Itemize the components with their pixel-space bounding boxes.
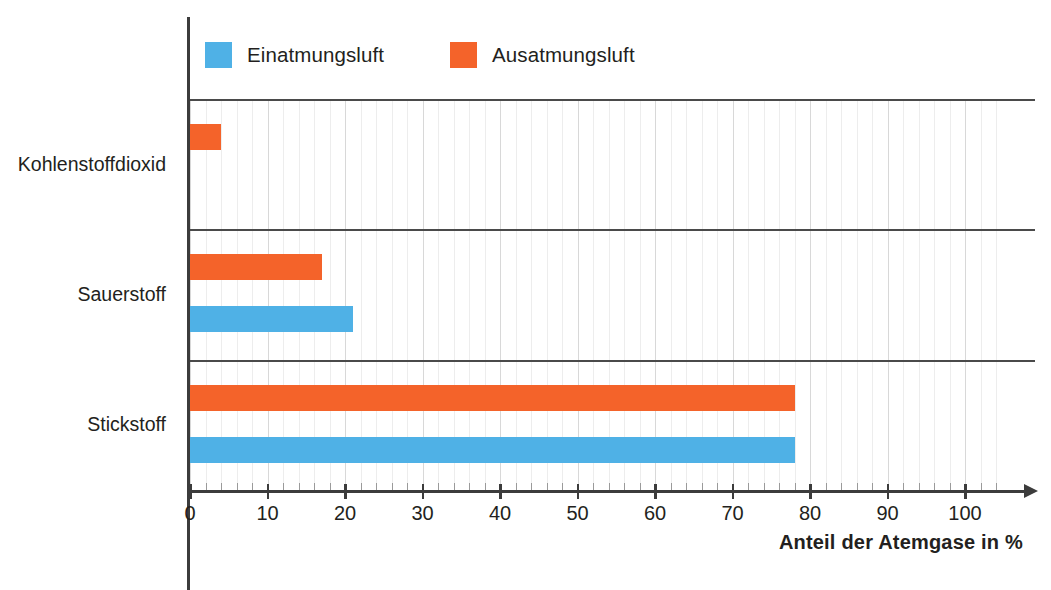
grid-line-minor xyxy=(981,99,982,490)
x-minor-tick xyxy=(903,483,904,490)
x-minor-tick xyxy=(361,483,362,490)
x-tick-label-60: 60 xyxy=(644,502,666,525)
x-tick-label-70: 70 xyxy=(721,502,743,525)
grid-line-minor xyxy=(593,99,594,490)
x-minor-tick xyxy=(934,483,935,490)
grid-line-minor xyxy=(206,99,207,490)
x-minor-tick xyxy=(252,483,253,490)
x-minor-tick xyxy=(950,483,951,490)
bar-stickstoff-einatmungsluft[interactable] xyxy=(190,437,795,463)
legend-item-ausatmungsluft[interactable]: Ausatmungsluft xyxy=(450,42,635,68)
grid-line-major xyxy=(423,99,424,490)
x-minor-tick xyxy=(717,483,718,490)
grid-line-major xyxy=(733,99,734,490)
x-minor-tick xyxy=(919,483,920,490)
x-minor-tick xyxy=(640,483,641,490)
grid-line-minor xyxy=(624,99,625,490)
grid-line-major xyxy=(578,99,579,490)
x-minor-tick xyxy=(996,483,997,490)
x-tick-label-10: 10 xyxy=(256,502,278,525)
grid-line-minor xyxy=(438,99,439,490)
x-minor-tick xyxy=(702,483,703,490)
x-minor-tick xyxy=(748,483,749,490)
x-tick-label-90: 90 xyxy=(876,502,898,525)
grid-line-minor xyxy=(934,99,935,490)
x-minor-tick xyxy=(826,483,827,490)
grid-line-minor xyxy=(283,99,284,490)
band-separator-middle-2 xyxy=(190,360,1035,362)
bar-kohlenstoffdioxid-ausatmungsluft[interactable] xyxy=(190,124,221,150)
grid-line-minor xyxy=(996,99,997,490)
x-tick-40 xyxy=(499,484,502,499)
x-minor-tick xyxy=(454,483,455,490)
x-minor-tick xyxy=(314,483,315,490)
grid-line-minor xyxy=(407,99,408,490)
grid-line-minor xyxy=(562,99,563,490)
x-minor-tick xyxy=(531,483,532,490)
grid-line-major xyxy=(268,99,269,490)
grid-line-minor xyxy=(950,99,951,490)
x-minor-tick xyxy=(221,483,222,490)
grid-line-major xyxy=(965,99,966,490)
legend-item-einatmungsluft[interactable]: Einatmungsluft xyxy=(205,42,384,68)
grid-line-minor xyxy=(299,99,300,490)
x-minor-tick xyxy=(857,483,858,490)
grid-line-minor xyxy=(872,99,873,490)
category-label-sauerstoff: Sauerstoff xyxy=(0,283,166,306)
category-axis-labels: Kohlenstoffdioxid Sauerstoff Stickstoff xyxy=(0,99,178,490)
grid-line-minor xyxy=(376,99,377,490)
x-tick-label-100: 100 xyxy=(948,502,981,525)
x-minor-tick xyxy=(438,483,439,490)
x-minor-tick xyxy=(562,483,563,490)
grid-line-major xyxy=(345,99,346,490)
x-minor-tick xyxy=(283,483,284,490)
grid-line-major xyxy=(810,99,811,490)
x-minor-tick xyxy=(206,483,207,490)
bar-sauerstoff-einatmungsluft[interactable] xyxy=(190,306,353,332)
x-minor-tick xyxy=(624,483,625,490)
legend-swatch-exhale xyxy=(450,42,477,68)
legend-label-inhale: Einatmungsluft xyxy=(247,43,384,67)
grid-line-minor xyxy=(454,99,455,490)
x-minor-tick xyxy=(872,483,873,490)
grid-line-minor xyxy=(748,99,749,490)
grid-line-minor xyxy=(314,99,315,490)
x-minor-tick xyxy=(407,483,408,490)
x-tick-label-80: 80 xyxy=(799,502,821,525)
value-axis-line xyxy=(187,490,1027,493)
x-tick-label-40: 40 xyxy=(489,502,511,525)
x-axis-title: Anteil der Atemgase in % xyxy=(779,531,1023,554)
x-tick-0 xyxy=(189,484,192,499)
x-minor-tick xyxy=(299,483,300,490)
grid-line-minor xyxy=(361,99,362,490)
grid-line-minor xyxy=(764,99,765,490)
x-tick-label-30: 30 xyxy=(411,502,433,525)
bar-sauerstoff-ausatmungsluft[interactable] xyxy=(190,254,322,280)
chart-legend: Einatmungsluft Ausatmungsluft xyxy=(205,38,635,72)
grid-line-minor xyxy=(903,99,904,490)
grid-line-major xyxy=(888,99,889,490)
grid-line-minor xyxy=(779,99,780,490)
x-tick-80 xyxy=(809,484,812,499)
grid-line-minor xyxy=(237,99,238,490)
bar-stickstoff-ausatmungsluft[interactable] xyxy=(190,385,795,411)
x-minor-tick xyxy=(516,483,517,490)
grid-line-minor xyxy=(919,99,920,490)
category-label-stickstoff: Stickstoff xyxy=(0,413,166,436)
x-tick-70 xyxy=(732,484,735,499)
x-minor-tick xyxy=(392,483,393,490)
grid-line-minor xyxy=(531,99,532,490)
grid-line-minor xyxy=(717,99,718,490)
x-minor-tick xyxy=(469,483,470,490)
grid-line-minor xyxy=(469,99,470,490)
grid-line-major xyxy=(190,99,191,490)
x-tick-90 xyxy=(887,484,890,499)
x-minor-tick xyxy=(485,483,486,490)
grid-line-minor xyxy=(392,99,393,490)
grid-line-minor xyxy=(686,99,687,490)
grid-line-minor xyxy=(516,99,517,490)
x-tick-30 xyxy=(422,484,425,499)
x-minor-tick xyxy=(237,483,238,490)
x-tick-100 xyxy=(964,484,967,499)
